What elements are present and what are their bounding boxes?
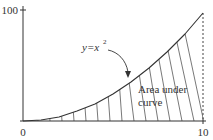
x-tick-label-0: 0 (20, 126, 26, 138)
curve-label: y=x (81, 41, 99, 53)
curve-label-exponent: 2 (103, 38, 107, 46)
area-label-line2: curve (138, 96, 163, 108)
area-under-curve-figure: 100 0 10 y=x 2 Area under curve (0, 0, 213, 140)
annotation-arrow (108, 50, 128, 72)
area-label-line1: Area under (138, 83, 188, 95)
x-tick-label-10: 10 (198, 126, 210, 138)
arrow-head-icon (125, 71, 131, 78)
hatch-fill (30, 10, 203, 121)
curve-y-equals-x-squared (23, 13, 203, 121)
curve-label-base: y=x (81, 41, 99, 53)
y-tick-label-100: 100 (2, 4, 19, 16)
